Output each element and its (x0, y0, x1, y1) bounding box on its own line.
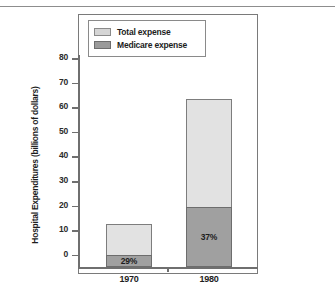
y-tick-label-80: 80 (42, 53, 68, 62)
y-tick-40 (72, 156, 78, 158)
bar-1970-percent-label: 29% (121, 256, 137, 266)
bar-1980-medicare[interactable]: 37% (186, 207, 232, 267)
legend-label-total-expense: Total expense (117, 27, 170, 37)
y-tick-label-0: 0 (42, 250, 68, 259)
y-tick-70 (72, 83, 78, 85)
bar-1970-medicare[interactable]: 29% (106, 255, 152, 267)
chart-plot-area: 80 70 60 50 40 30 20 10 0 Hospital Expen… (0, 0, 335, 305)
x-tick-mid (167, 267, 169, 272)
x-tick-label-1970: 1970 (99, 274, 159, 284)
y-tick-80 (72, 58, 78, 60)
cropped-caption (4, 297, 204, 305)
y-tick-label-40: 40 (42, 151, 68, 160)
y-tick-label-10: 10 (42, 225, 68, 234)
y-tick-50 (72, 132, 78, 134)
chart-legend: Total expense Medicare expense (88, 20, 206, 57)
y-axis-title: Hospital Expenditures (billions of dolla… (30, 70, 40, 260)
legend-item-medicare-expense[interactable]: Medicare expense (94, 39, 200, 51)
y-tick-label-50: 50 (42, 127, 68, 136)
legend-label-medicare-expense: Medicare expense (117, 40, 187, 50)
legend-swatch-total-expense (94, 28, 111, 36)
y-tick-10 (72, 230, 78, 232)
y-tick-60 (72, 107, 78, 109)
y-tick-30 (72, 181, 78, 183)
y-tick-label-70: 70 (42, 78, 68, 87)
y-tick-label-30: 30 (42, 176, 68, 185)
y-tick-20 (72, 206, 78, 208)
x-tick-label-1980: 1980 (179, 274, 239, 284)
y-tick-label-60: 60 (42, 102, 68, 111)
legend-swatch-medicare-expense (94, 41, 111, 49)
legend-item-total-expense[interactable]: Total expense (94, 26, 200, 38)
y-tick-0 (72, 255, 78, 257)
y-axis-line (78, 55, 80, 267)
y-tick-label-20: 20 (42, 201, 68, 210)
bar-1980-percent-label: 37% (201, 232, 217, 242)
